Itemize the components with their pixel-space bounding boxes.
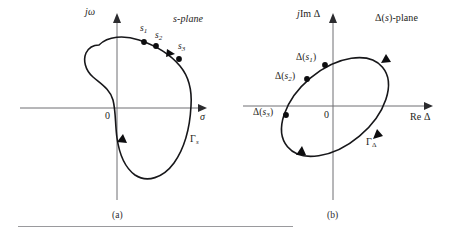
delta-contour-direction-arrow-lower-left (296, 146, 306, 155)
s-plane-origin-label: 0 (105, 111, 110, 121)
delta-s1-point-label: Δ(s1) (296, 53, 316, 63)
s2-point-label: s2 (155, 31, 162, 41)
jimdelta-axis-arrowhead (329, 13, 337, 23)
delta-plane-origin-label: 0 (324, 110, 329, 120)
s3-point-label: s3 (178, 42, 185, 52)
s-plane-title-label: s-plane (173, 14, 203, 24)
panel-b-caption: (b) (327, 210, 338, 220)
panel-a-caption: (a) (112, 210, 123, 220)
delta-contour-gamma-label: ΓΔ (366, 137, 377, 147)
jimdelta-axis-label: jIm Δ (297, 9, 320, 19)
s1-point-label: s1 (140, 24, 147, 34)
s2-point-marker (153, 43, 159, 49)
delta-s1-point-marker (322, 62, 328, 68)
figure-canvas (0, 0, 449, 235)
s1-point-marker (141, 39, 147, 45)
delta-contour-direction-arrow-upper-right (381, 54, 391, 63)
s-contour-direction-arrow-bottom (117, 134, 127, 143)
redelta-axis-label: Re Δ (410, 112, 430, 122)
delta-plane-title-label: Δ(s)-plane (375, 13, 418, 23)
sigma-axis-label: σ (200, 112, 205, 122)
panel-b-contour-group (263, 38, 407, 176)
delta-s3-point-label: Δ(s3) (253, 108, 273, 118)
figure-nyquist-mapping: jω σ 0 s-plane Γs s1 s2 s3 (a) jIm Δ Re … (0, 0, 449, 235)
delta-s2-point-marker (304, 76, 310, 82)
redelta-axis-arrowhead (424, 102, 433, 110)
jomega-axis-arrowhead (113, 13, 121, 23)
jomega-axis-label: jω (85, 7, 95, 17)
delta-s2-point-label: Δ(s2) (275, 72, 295, 82)
delta-s3-point-marker (283, 112, 289, 118)
s3-point-marker (176, 56, 182, 62)
s-contour-gamma-label: Γs (190, 134, 199, 144)
